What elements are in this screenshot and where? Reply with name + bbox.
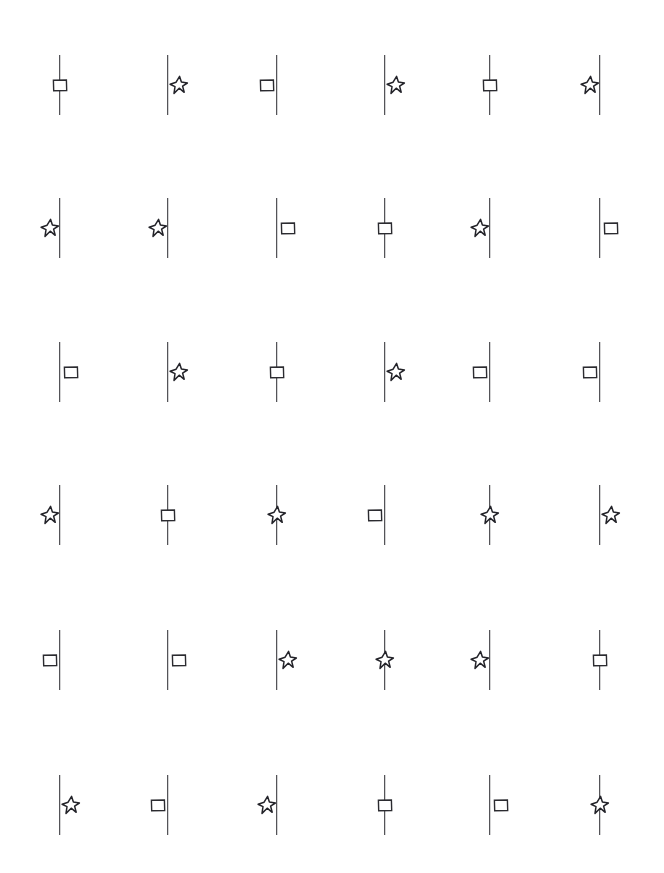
square-icon [267, 362, 287, 382]
grid-cell [114, 173, 222, 283]
grid-cell [436, 30, 544, 140]
grid-cell [331, 173, 439, 283]
star-icon [267, 505, 287, 525]
grid-cell [546, 605, 654, 715]
square-icon [580, 362, 600, 382]
star-icon [375, 650, 395, 670]
grid-cell [114, 750, 222, 860]
worksheet-canvas [0, 0, 664, 873]
grid-cell [114, 317, 222, 427]
grid-cell [114, 460, 222, 570]
star-icon [278, 650, 298, 670]
star-icon [40, 505, 60, 525]
grid-cell [331, 750, 439, 860]
square-icon [491, 795, 511, 815]
star-icon [386, 362, 406, 382]
grid-cell [546, 750, 654, 860]
grid-cell [6, 317, 114, 427]
square-icon [470, 362, 490, 382]
square-icon [601, 218, 621, 238]
grid-cell [546, 30, 654, 140]
grid-cell [436, 750, 544, 860]
grid-cell [436, 460, 544, 570]
square-icon [590, 650, 610, 670]
grid-cell [114, 30, 222, 140]
square-icon [169, 650, 189, 670]
grid-cell [436, 173, 544, 283]
star-icon [601, 505, 621, 525]
star-icon [169, 75, 189, 95]
star-icon [580, 75, 600, 95]
star-icon [61, 795, 81, 815]
square-icon [40, 650, 60, 670]
square-icon [158, 505, 178, 525]
star-icon [257, 795, 277, 815]
star-icon [148, 218, 168, 238]
grid-cell [6, 460, 114, 570]
grid-cell [223, 460, 331, 570]
grid-cell [223, 30, 331, 140]
square-icon [61, 362, 81, 382]
star-icon [480, 505, 500, 525]
grid-cell [331, 317, 439, 427]
grid-cell [331, 30, 439, 140]
star-icon [470, 218, 490, 238]
grid-cell [331, 605, 439, 715]
square-icon [375, 795, 395, 815]
grid-cell [223, 605, 331, 715]
grid-cell [436, 605, 544, 715]
star-icon [470, 650, 490, 670]
square-icon [278, 218, 298, 238]
grid-cell [331, 460, 439, 570]
grid-cell [223, 317, 331, 427]
grid-cell [114, 605, 222, 715]
square-icon [148, 795, 168, 815]
star-icon [40, 218, 60, 238]
grid-cell [546, 317, 654, 427]
grid-cell [223, 173, 331, 283]
grid-cell [436, 317, 544, 427]
grid-cell [6, 30, 114, 140]
grid-cell [546, 460, 654, 570]
grid-cell [6, 750, 114, 860]
square-icon [50, 75, 70, 95]
square-icon [375, 218, 395, 238]
square-icon [480, 75, 500, 95]
grid-cell [546, 173, 654, 283]
square-icon [257, 75, 277, 95]
grid-cell [6, 173, 114, 283]
grid-cell [223, 750, 331, 860]
star-icon [386, 75, 406, 95]
grid-cell [6, 605, 114, 715]
square-icon [365, 505, 385, 525]
star-icon [590, 795, 610, 815]
star-icon [169, 362, 189, 382]
